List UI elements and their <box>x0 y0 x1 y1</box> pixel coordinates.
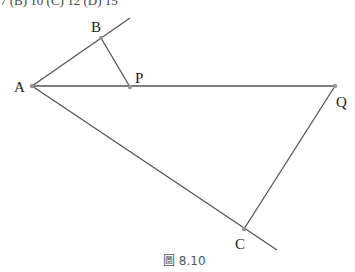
point-B <box>99 36 103 40</box>
ray-AC <box>32 86 277 250</box>
point-Q <box>333 84 337 88</box>
ray-AB <box>32 18 130 86</box>
label-Q: Q <box>336 94 347 110</box>
segment-QC <box>244 86 335 229</box>
point-C <box>242 227 246 231</box>
geometry-figure: A B P Q C <box>0 0 355 272</box>
segment-BP <box>101 38 130 87</box>
label-B: B <box>91 19 101 35</box>
figure-caption: 圖 8.10 <box>163 251 206 268</box>
label-P: P <box>135 70 143 86</box>
label-A: A <box>14 79 25 95</box>
point-A <box>30 84 34 88</box>
point-P <box>128 85 132 89</box>
label-C: C <box>235 236 245 252</box>
